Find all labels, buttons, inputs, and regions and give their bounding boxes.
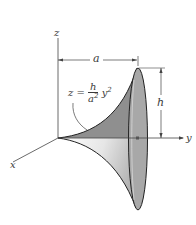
dimension-h-label: h bbox=[157, 97, 164, 108]
equation-variable: y2 bbox=[102, 87, 112, 98]
paraboloid-horn-figure: z y x a h z = h a2 y2 bbox=[0, 0, 196, 225]
diagram-graphics bbox=[0, 0, 196, 225]
x-axis-label: x bbox=[10, 160, 16, 170]
lower-surface bbox=[58, 138, 138, 208]
y-axis-label: y bbox=[186, 133, 192, 143]
equation-fraction: h a2 bbox=[88, 82, 98, 104]
equation-denominator: a2 bbox=[88, 93, 98, 104]
equation-variable-exponent: 2 bbox=[107, 86, 111, 94]
y-axis-arrowhead bbox=[179, 136, 184, 139]
x-axis bbox=[13, 138, 58, 162]
equation-leader-line bbox=[73, 103, 87, 130]
dimension-a-label: a bbox=[93, 53, 100, 64]
rim-center-marker bbox=[136, 137, 139, 140]
equation-lhs: z = bbox=[68, 87, 85, 98]
z-axis-label: z bbox=[54, 28, 59, 38]
dimension-h-arrow-bottom bbox=[159, 133, 162, 138]
surface-equation: z = h a2 y2 bbox=[68, 82, 112, 104]
dimension-a-arrow-right bbox=[132, 58, 137, 61]
equation-denominator-exponent: 2 bbox=[94, 92, 98, 100]
dimension-a-arrow-left bbox=[58, 58, 63, 61]
dimension-h-arrow-top bbox=[159, 68, 162, 73]
